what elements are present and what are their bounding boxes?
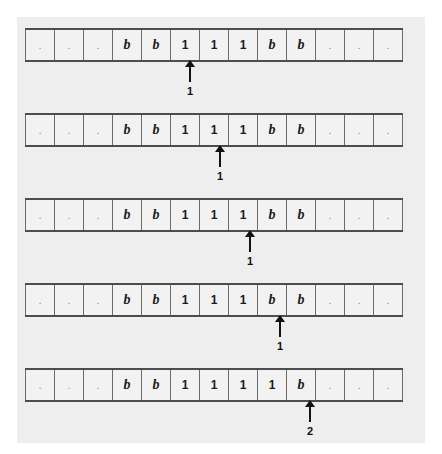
tape-cell: 1 [257,370,287,400]
tape-configuration-row: ...bb1111b...2 [17,368,425,453]
tape-cell: b [286,370,316,400]
tape-cell: 1 [170,285,200,315]
tape-cell: 1 [170,370,200,400]
tape-cell: . [25,370,55,400]
tape-head-marker: 1 [235,230,265,267]
arrow-up-icon [175,60,205,82]
machine-state-label: 1 [265,340,295,352]
machine-state-label: 1 [175,85,205,97]
tape-cell: . [315,285,345,315]
tape-cell: . [83,370,113,400]
tape-cell: b [286,30,316,60]
tape-cell: b [141,285,171,315]
figure-panel: ...bb111bb...1...bb111bb...1...bb111bb..… [17,17,425,443]
tape-cell: . [344,285,374,315]
tape-cell: b [112,370,142,400]
machine-state-label: 1 [205,170,235,182]
tape-cell: . [344,30,374,60]
tape: ...bb111bb... [25,283,403,317]
tape-cell: . [373,115,403,145]
tape-configuration-row: ...bb111bb...1 [17,198,425,283]
tape-cell: b [112,115,142,145]
tape-cell: . [344,370,374,400]
tape: ...bb1111b... [25,368,403,402]
tape-cell: . [373,370,403,400]
tape: ...bb111bb... [25,28,403,62]
tape-cell: 1 [199,200,229,230]
tape-cell: . [315,370,345,400]
tape-configuration-row: ...bb111bb...1 [17,113,425,198]
tape-cell: . [25,285,55,315]
tape-cell: b [286,285,316,315]
arrow-up-icon [265,315,295,337]
tape-cell: . [373,30,403,60]
tape-cell: . [373,200,403,230]
tape-cell: 1 [170,115,200,145]
tape-head-marker: 1 [175,60,205,97]
tape-cell: . [83,285,113,315]
tape-cell: b [257,285,287,315]
tape-configuration-row: ...bb111bb...1 [17,283,425,368]
tape-cell: 1 [228,200,258,230]
tape-cell: 1 [199,285,229,315]
arrow-up-icon [205,145,235,167]
tape-cell: . [54,115,84,145]
tape-cell: . [54,30,84,60]
tape: ...bb111bb... [25,113,403,147]
machine-state-label: 1 [235,255,265,267]
tape-cell: b [141,115,171,145]
tape-cell: 1 [199,30,229,60]
tape-cell: b [286,200,316,230]
tape-cell: b [112,30,142,60]
tape-cell: . [54,370,84,400]
tape-cell: . [83,30,113,60]
tape-cell: b [141,30,171,60]
tape-cell: . [54,200,84,230]
tape-cell: . [83,115,113,145]
tape-cell: 1 [228,115,258,145]
tape-cell: b [257,200,287,230]
tape-cell: 1 [228,370,258,400]
tape-cell: 1 [228,30,258,60]
tape-cell: . [344,200,374,230]
tape-cell: b [257,30,287,60]
tape-cell: b [141,370,171,400]
tape-cell: b [112,285,142,315]
tape-cell: b [257,115,287,145]
tape-cell: . [25,115,55,145]
tape-cell: . [344,115,374,145]
tape-cell: 1 [170,200,200,230]
tape-cell: 1 [199,115,229,145]
tape-cell: b [112,200,142,230]
tape-cell: . [83,200,113,230]
tape-configuration-row: ...bb111bb...1 [17,28,425,113]
tape-cell: 1 [228,285,258,315]
arrow-up-icon [235,230,265,252]
tape-cell: . [315,30,345,60]
tape-cell: 1 [170,30,200,60]
tape-cell: . [54,285,84,315]
tape-cell: . [25,200,55,230]
tape-head-marker: 2 [295,400,325,437]
tape-cell: b [286,115,316,145]
tape-head-marker: 1 [265,315,295,352]
tape-cell: . [373,285,403,315]
tape-cell: . [315,200,345,230]
tape-cell: b [141,200,171,230]
arrow-up-icon [295,400,325,422]
tape-cell: . [315,115,345,145]
tape: ...bb111bb... [25,198,403,232]
machine-state-label: 2 [295,425,325,437]
tape-head-marker: 1 [205,145,235,182]
tape-cell: . [25,30,55,60]
tape-cell: 1 [199,370,229,400]
